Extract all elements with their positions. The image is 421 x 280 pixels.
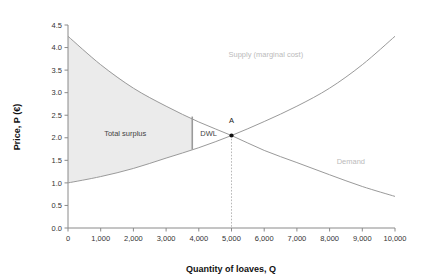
y-tick-label: 0.5 [52, 201, 62, 210]
y-tick-label: 2.5 [52, 111, 62, 120]
x-tick-label: 4,000 [189, 234, 208, 243]
x-axis-title: Quantity of loaves, Q [186, 264, 276, 274]
y-tick-label: 1.5 [52, 156, 62, 165]
x-axis-tick-labels: 01,0002,0003,0004,0005,0006,0007,0008,00… [66, 234, 407, 243]
total-surplus-label: Total surplus [104, 129, 146, 138]
dwl-label: DWL [200, 129, 217, 138]
y-tick-label: 1.0 [52, 179, 62, 188]
y-axis-title: Price, P (€) [12, 104, 22, 150]
x-tick-label: 10,000 [384, 234, 407, 243]
x-axis-tick-marks [68, 228, 395, 232]
y-tick-label: 4.5 [52, 21, 62, 30]
y-axis-tick-marks [65, 25, 69, 228]
x-tick-label: 6,000 [255, 234, 274, 243]
y-tick-label: 4.0 [52, 43, 62, 52]
x-tick-label: 5,000 [222, 234, 241, 243]
equilibrium-point-marker [229, 133, 233, 137]
chart-figure: 0.00.51.01.52.02.53.03.54.04.5 01,0002,0… [0, 0, 421, 280]
y-tick-label: 2.0 [52, 133, 62, 142]
x-tick-label: 7,000 [288, 234, 307, 243]
supply-curve-label: Supply (marginal cost) [229, 50, 304, 59]
x-tick-label: 3,000 [157, 234, 176, 243]
x-tick-label: 2,000 [124, 234, 143, 243]
x-tick-label: 9,000 [353, 234, 372, 243]
demand-curve-label: Demand [337, 157, 365, 166]
x-tick-label: 0 [66, 234, 70, 243]
equilibrium-point-label: A [229, 116, 234, 125]
x-tick-label: 1,000 [91, 234, 110, 243]
y-tick-label: 0.0 [52, 224, 62, 233]
y-tick-label: 3.0 [52, 88, 62, 97]
y-axis-tick-labels: 0.00.51.01.52.02.53.03.54.04.5 [52, 21, 62, 233]
y-tick-label: 3.5 [52, 66, 62, 75]
supply-demand-chart: 0.00.51.01.52.02.53.03.54.04.5 01,0002,0… [0, 0, 421, 280]
x-tick-label: 8,000 [320, 234, 339, 243]
